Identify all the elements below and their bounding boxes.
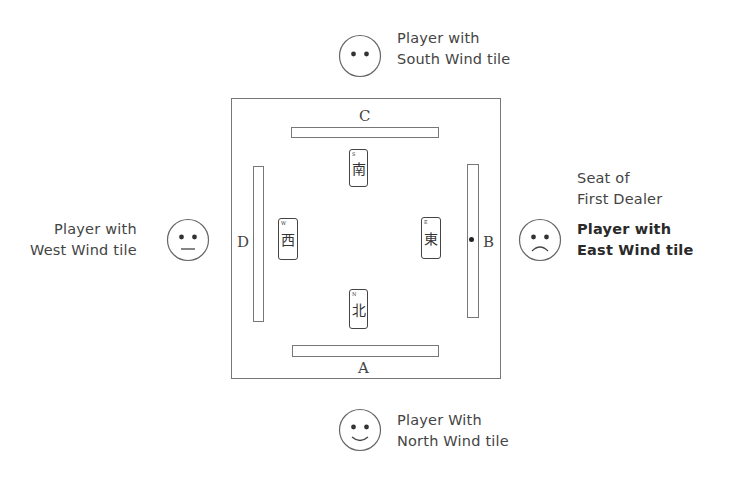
wall-b-label: B	[483, 234, 494, 250]
west-player-label-line1: Player with	[30, 219, 137, 240]
first-dealer-note-line1: Seat of	[577, 168, 662, 189]
tile-corner-mark: E	[424, 219, 428, 225]
east-player-label-line2: East Wind tile	[577, 240, 694, 261]
first-dealer-note: Seat of First Dealer	[577, 168, 662, 210]
wall-c	[291, 127, 439, 138]
south-player-label-line1: Player with	[397, 28, 510, 49]
south-wind-tile: S 南	[349, 149, 368, 187]
west-player-face	[166, 218, 210, 262]
wall-a	[292, 345, 439, 357]
tile-character: 南	[352, 158, 366, 178]
flat-mouth-face-icon	[166, 218, 210, 262]
north-player-label-line2: North Wind tile	[397, 431, 509, 452]
smile-face-icon	[338, 408, 382, 452]
south-player-label-line2: South Wind tile	[397, 49, 510, 70]
mahjong-table	[231, 98, 501, 379]
north-player-face	[338, 408, 382, 452]
west-wind-tile: W 西	[278, 218, 298, 260]
tile-character: 北	[352, 299, 366, 319]
east-player-label: Player with East Wind tile	[577, 219, 694, 261]
tile-corner-mark: W	[281, 220, 286, 226]
tile-character: 西	[281, 229, 295, 249]
wall-c-label: C	[359, 108, 370, 124]
south-player-label: Player with South Wind tile	[397, 28, 510, 70]
wall-d-label: D	[237, 234, 249, 250]
wall-d	[253, 166, 264, 322]
north-player-label-line1: Player With	[397, 410, 509, 431]
west-player-label: Player with West Wind tile	[30, 219, 137, 261]
neutral-face-icon	[338, 34, 382, 78]
east-player-face	[518, 218, 562, 262]
west-player-label-line2: West Wind tile	[30, 240, 137, 261]
south-player-face	[338, 34, 382, 78]
tile-corner-mark: S	[352, 151, 355, 157]
tile-corner-mark: N	[352, 291, 356, 297]
tile-character: 東	[424, 228, 438, 248]
north-player-label: Player With North Wind tile	[397, 410, 509, 452]
wall-a-label: A	[358, 360, 369, 376]
north-wind-tile: N 北	[349, 289, 368, 329]
east-player-label-line1: Player with	[577, 219, 694, 240]
frown-face-icon	[518, 218, 562, 262]
first-dealer-note-line2: First Dealer	[577, 189, 662, 210]
east-wind-tile: E 東	[421, 217, 441, 259]
dealer-marker-dot	[469, 237, 474, 242]
